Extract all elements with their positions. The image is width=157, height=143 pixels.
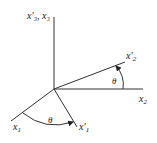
- x2-prime-label: x′2: [125, 50, 137, 63]
- x2-label: x2: [138, 93, 147, 106]
- theta-arc-upper: [116, 66, 123, 89]
- theta-upper-label: θ: [112, 76, 117, 86]
- x1-prime-label: x′1: [78, 121, 89, 134]
- theta-lower-label: θ: [48, 115, 53, 125]
- x1-label: x1: [12, 121, 21, 134]
- x1-prime-axis: [54, 89, 77, 127]
- x3-label: x′₃, x₃: [26, 10, 51, 21]
- rotation-diagram: x′₃, x₃ x2 x′2 x1 x′1 θ θ: [0, 0, 157, 143]
